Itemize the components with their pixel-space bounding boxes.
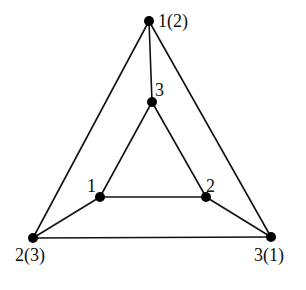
edge-outer_left-outer_right — [33, 237, 271, 238]
label-inner-top: 3 — [155, 80, 164, 100]
edge-outer_right-inner_right — [206, 197, 271, 237]
node-outer-top — [144, 16, 154, 26]
edge-outer_left-inner_left — [33, 197, 100, 238]
nested-triangle-graph: 1(2)2(3)3(1)312 — [0, 0, 306, 290]
edge-outer_top-inner_top — [149, 21, 152, 102]
edge-inner_top-inner_right — [152, 102, 206, 197]
label-inner-left: 1 — [87, 176, 96, 196]
label-inner-right: 2 — [206, 176, 215, 196]
label-outer-top: 1(2) — [158, 11, 188, 32]
nodes-group — [28, 16, 276, 243]
edge-inner_top-inner_left — [100, 102, 152, 197]
edge-outer_top-outer_left — [33, 21, 149, 238]
node-outer-left — [28, 233, 38, 243]
edges-group — [33, 21, 271, 238]
node-outer-right — [266, 232, 276, 242]
node-inner-left — [95, 192, 105, 202]
label-outer-right: 3(1) — [254, 245, 284, 266]
label-outer-left: 2(3) — [15, 245, 45, 266]
